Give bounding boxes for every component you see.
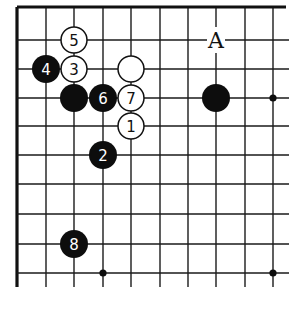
white-stone-7: 7: [118, 85, 144, 111]
go-board: 12345678 A: [0, 0, 293, 320]
black-stone-2: 2: [89, 141, 117, 169]
point-label: A: [207, 28, 225, 53]
move-number: 4: [41, 61, 51, 79]
move-number: 7: [126, 90, 136, 108]
black-stone-icon: [202, 84, 230, 112]
black-stone-6: 6: [89, 84, 117, 112]
black-stone: [60, 84, 88, 112]
black-stone-4: 4: [32, 55, 60, 83]
move-number: 3: [69, 61, 79, 79]
white-stone-icon: [118, 56, 144, 82]
black-stone: [202, 84, 230, 112]
star-point-icon: [99, 269, 106, 276]
move-number: 8: [69, 236, 79, 254]
star-point-icon: [269, 94, 276, 101]
white-stone-5: 5: [61, 27, 87, 53]
board-grid: [17, 7, 289, 287]
white-stone-1: 1: [118, 113, 144, 139]
move-number: 2: [98, 147, 108, 165]
board-labels: A: [207, 27, 225, 53]
black-stone-8: 8: [60, 230, 88, 258]
white-stone: [118, 56, 144, 82]
move-number: 6: [98, 90, 108, 108]
star-point-icon: [269, 269, 276, 276]
move-number: 1: [126, 118, 136, 136]
move-number: 5: [69, 32, 79, 50]
black-stone-icon: [60, 84, 88, 112]
white-stone-3: 3: [61, 56, 87, 82]
